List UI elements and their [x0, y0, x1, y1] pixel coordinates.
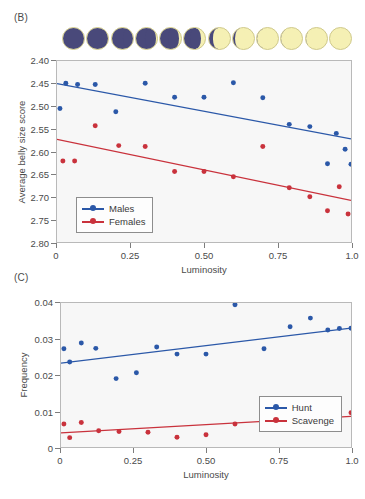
data-point [61, 421, 66, 426]
data-point [325, 208, 330, 213]
data-point [114, 376, 119, 381]
data-point [134, 370, 139, 375]
data-point [204, 352, 209, 357]
legend-marker-hunt [265, 402, 287, 413]
data-point [143, 144, 148, 149]
legend-item-scavenge: Scavenge [265, 414, 334, 427]
panel-b-legend: Males Females [76, 197, 153, 233]
y-axis-tick-label: 2.60 [31, 146, 50, 157]
y-axis-tick [55, 375, 60, 376]
x-axis-tick [133, 448, 134, 453]
y-axis-tick-label: 0 [48, 443, 53, 454]
y-axis-tick [51, 129, 56, 130]
y-axis-tick [55, 339, 60, 340]
y-axis-tick [55, 302, 60, 303]
panel-label-b: (B) [14, 12, 28, 23]
data-point [334, 131, 339, 136]
data-point [231, 174, 236, 179]
data-point [79, 420, 84, 425]
moon-phase-icon [135, 27, 158, 50]
data-point [260, 95, 265, 100]
x-axis-tick-label: 0.50 [195, 250, 214, 261]
data-point [202, 95, 207, 100]
data-point [60, 159, 65, 164]
data-point [349, 162, 351, 167]
data-point [116, 143, 121, 148]
data-point [93, 346, 98, 351]
data-point [67, 435, 72, 440]
x-axis-tick [352, 448, 353, 453]
data-point [233, 303, 238, 307]
moon-phase-icon [62, 27, 85, 50]
trend-line [61, 328, 351, 363]
figure-root: (B) Average belly size score Luminosity … [0, 0, 365, 499]
data-point [346, 211, 351, 216]
data-point [349, 326, 351, 331]
y-axis-tick-label: 0.03 [35, 333, 54, 344]
moon-phase-icon [232, 27, 255, 50]
data-point [79, 340, 84, 345]
moon-phase-icon [305, 27, 328, 50]
panel-c-x-axis-title: Luminosity [183, 469, 228, 480]
panel-label-c: (C) [14, 272, 28, 283]
moon-phase-icon [159, 27, 182, 50]
x-axis-tick-label: 1.0 [345, 250, 358, 261]
data-point [231, 80, 236, 85]
legend-label-scavenge: Scavenge [292, 415, 334, 426]
x-axis-tick-label: 0.25 [121, 250, 140, 261]
data-point [172, 95, 177, 100]
panel-b-x-axis-title: Luminosity [181, 264, 226, 275]
moon-phase-icon [183, 27, 206, 50]
legend-item-males: Males [82, 202, 145, 215]
y-axis-tick-label: 2.45 [31, 77, 50, 88]
data-point [307, 124, 312, 129]
x-axis-tick [56, 243, 57, 248]
y-axis-tick [51, 220, 56, 221]
data-point [337, 326, 342, 331]
x-axis-tick [204, 243, 205, 248]
y-axis-tick [51, 197, 56, 198]
data-point [287, 185, 292, 190]
data-point [63, 81, 68, 86]
y-axis-tick-label: 0.04 [35, 297, 54, 308]
y-axis-tick-label: 2.65 [31, 169, 50, 180]
moon-phase-icon [329, 27, 352, 50]
legend-marker-females [82, 216, 104, 227]
y-axis-tick [51, 83, 56, 84]
x-axis-tick-label: 0 [53, 250, 58, 261]
y-axis-tick [51, 152, 56, 153]
data-point [325, 328, 330, 333]
data-point [117, 429, 122, 434]
y-axis-tick-label: 2.80 [31, 238, 50, 249]
legend-marker-scavenge [265, 415, 287, 426]
x-axis-tick-label: 0.50 [197, 455, 216, 466]
legend-item-females: Females [82, 215, 145, 228]
data-point [308, 316, 313, 321]
data-point [175, 352, 180, 357]
y-axis-tick-label: 2.50 [31, 100, 50, 111]
data-point [337, 184, 342, 189]
data-point [343, 147, 348, 152]
y-axis-tick [51, 60, 56, 61]
x-axis-tick-label: 0 [57, 455, 62, 466]
data-point [202, 169, 207, 174]
data-point [113, 109, 118, 114]
y-axis-tick-label: 2.40 [31, 55, 50, 66]
data-point [204, 432, 209, 437]
data-point [233, 421, 238, 426]
data-point [67, 360, 72, 365]
moon-phase-icon [86, 27, 109, 50]
lunar-phase-sequence [62, 22, 352, 54]
data-point [93, 123, 98, 128]
data-point [262, 346, 267, 351]
y-axis-tick-label: 0.02 [35, 370, 54, 381]
moon-phase-icon [256, 27, 279, 50]
data-point [288, 324, 293, 329]
data-point [349, 410, 351, 415]
moon-phase-icon [280, 27, 303, 50]
legend-label-males: Males [109, 203, 134, 214]
panel-c-y-axis-title: Frequency [18, 353, 29, 398]
legend-marker-males [82, 203, 104, 214]
y-axis-tick-label: 2.75 [31, 215, 50, 226]
legend-label-hunt: Hunt [292, 402, 312, 413]
